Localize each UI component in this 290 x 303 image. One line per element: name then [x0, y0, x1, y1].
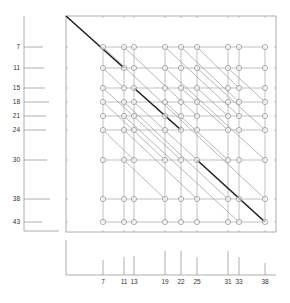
- grid-point-circle: [131, 196, 136, 201]
- grid-point-circle: [262, 219, 267, 224]
- column-label: 19: [161, 278, 169, 285]
- dotplot-diagram: 71115182124303843 71113192225313338: [0, 0, 290, 303]
- grid-point-circle: [100, 44, 105, 49]
- grid-point-circle: [100, 99, 105, 104]
- grid-point-circle: [131, 219, 136, 224]
- diagonal-line: [181, 47, 239, 102]
- grid-point-circle: [194, 85, 199, 90]
- row-label: 11: [13, 64, 20, 71]
- grid-point-circle: [225, 196, 230, 201]
- grid-point-circle: [121, 127, 126, 132]
- grid-point-circle: [262, 196, 267, 201]
- grid-point-circle: [194, 44, 199, 49]
- grid-point-circle: [162, 113, 167, 118]
- grid-point-circle: [225, 65, 230, 70]
- diagonal-line: [124, 130, 197, 199]
- grid-point-circle: [131, 127, 136, 132]
- grid-point-circle: [131, 113, 136, 118]
- grid-point-circle: [100, 85, 105, 90]
- grid-point-circle: [162, 85, 167, 90]
- diagonal-line: [103, 88, 181, 160]
- diagonal-line: [124, 47, 197, 116]
- grid-point-circle: [262, 127, 267, 132]
- grid-point-circle: [262, 99, 267, 104]
- grid-point-circle: [162, 99, 167, 104]
- grid-point-circle: [194, 157, 199, 162]
- row-label: 21: [13, 112, 21, 119]
- grid-point-circle: [121, 157, 126, 162]
- grid-point-circles: [100, 44, 267, 224]
- grid-point-circle: [236, 113, 241, 118]
- grid-point-circle: [262, 157, 267, 162]
- grid-point-circle: [162, 219, 167, 224]
- grid-point-circle: [194, 65, 199, 70]
- row-label: 38: [13, 195, 21, 202]
- grid-point-circle: [121, 44, 126, 49]
- grid-point-circle: [194, 113, 199, 118]
- grid-point-circle: [178, 157, 183, 162]
- grid-point-circle: [121, 219, 126, 224]
- grid-point-circle: [162, 44, 167, 49]
- grid-point-circle: [100, 157, 105, 162]
- plot-box: [66, 16, 276, 232]
- grid-point-circle: [225, 127, 230, 132]
- highlight-segment: [197, 160, 265, 222]
- grid-point-circle: [100, 219, 105, 224]
- grid-point-circle: [225, 99, 230, 104]
- grid-point-circle: [194, 127, 199, 132]
- grid-point-circle: [225, 85, 230, 90]
- grid-point-circle: [225, 219, 230, 224]
- grid-point-circle: [194, 99, 199, 104]
- grid-point-circle: [162, 127, 167, 132]
- grid-point-circle: [100, 127, 105, 132]
- grid-point-circle: [121, 196, 126, 201]
- grid-point-circle: [131, 99, 136, 104]
- row-label: 15: [13, 84, 21, 91]
- grid-point-circle: [178, 99, 183, 104]
- diagonal-line: [197, 68, 265, 130]
- row-label: 24: [13, 126, 21, 133]
- grid-point-circle: [121, 99, 126, 104]
- grid-point-circle: [236, 127, 241, 132]
- grid-point-circle: [236, 44, 241, 49]
- grid-point-circle: [236, 65, 241, 70]
- diagonal-line: [181, 88, 228, 130]
- grid-point-circle: [131, 44, 136, 49]
- row-label: 18: [13, 98, 21, 105]
- grid-point-circle: [178, 219, 183, 224]
- grid-point-circle: [262, 85, 267, 90]
- column-label: 13: [130, 278, 138, 285]
- grid-point-circle: [121, 65, 126, 70]
- column-label: 22: [177, 278, 185, 285]
- diagonal-line: [124, 160, 165, 199]
- row-label: 30: [13, 156, 21, 163]
- grid-point-circle: [236, 85, 241, 90]
- grid-point-circle: [236, 219, 241, 224]
- grid-point-circle: [162, 157, 167, 162]
- grid-point-circle: [100, 196, 105, 201]
- grid-point-circle: [236, 196, 241, 201]
- column-label: 31: [224, 278, 232, 285]
- column-label: 33: [235, 278, 243, 285]
- highlight-segment: [66, 16, 124, 68]
- row-histogram: 71115182124303843: [13, 16, 59, 231]
- grid-point-circle: [178, 65, 183, 70]
- grid-point-circle: [178, 127, 183, 132]
- diagonal-line: [124, 102, 228, 199]
- column-histogram: 71113192225313338: [66, 240, 276, 285]
- grid-point-circle: [178, 196, 183, 201]
- grid-point-circle: [131, 157, 136, 162]
- grid-point-circle: [225, 157, 230, 162]
- column-label: 11: [121, 278, 128, 285]
- grid-point-circle: [262, 44, 267, 49]
- grid-point-circle: [100, 113, 105, 118]
- grid-point-circle: [162, 196, 167, 201]
- grid-point-circle: [100, 65, 105, 70]
- grid-point-circle: [162, 65, 167, 70]
- column-label: 7: [101, 278, 105, 285]
- row-label: 43: [13, 218, 21, 225]
- grid-point-circle: [236, 99, 241, 104]
- grid-point-circle: [178, 113, 183, 118]
- diagonal-line: [103, 68, 124, 88]
- grid-point-circle: [131, 85, 136, 90]
